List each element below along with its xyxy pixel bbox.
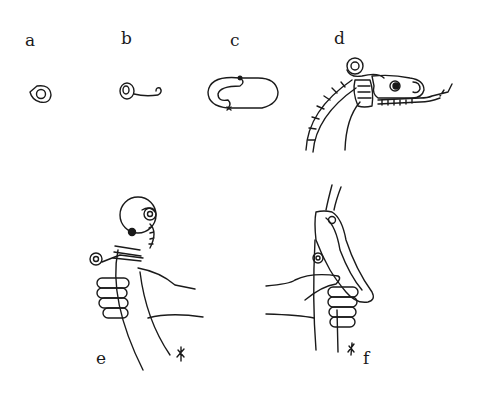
dragon-head-d: [306, 58, 452, 152]
hand-dragon-handle-e: [90, 197, 203, 370]
loop-outline-c: [208, 76, 278, 110]
eye-scroll-b: [120, 83, 161, 99]
artist-mark-f: [348, 343, 354, 355]
artist-mark-e: [177, 347, 184, 361]
eye-motif-a: [30, 86, 51, 103]
hand-clasp-handle-f: [266, 185, 373, 352]
